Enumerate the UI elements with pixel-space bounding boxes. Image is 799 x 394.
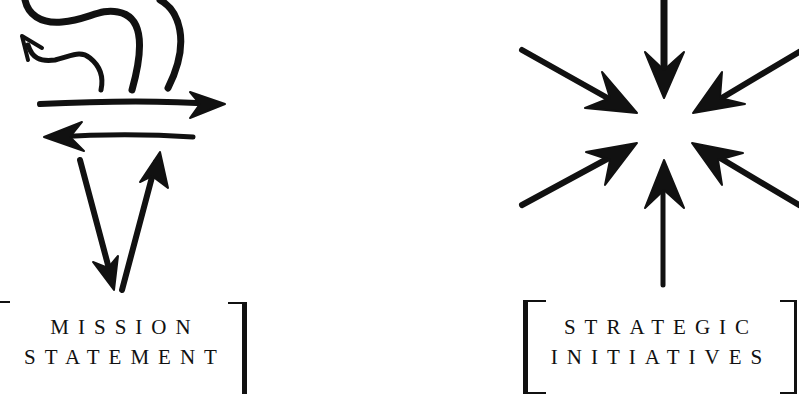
arrow-from-lower-right-icon <box>692 143 799 205</box>
label-line-2: STATEMENT <box>10 342 240 372</box>
torch-arrows-icon <box>0 0 270 300</box>
arrow-from-top-icon <box>645 0 684 98</box>
arrow-from-bottom-icon <box>645 160 684 285</box>
arrow-from-upper-left-icon <box>522 50 637 113</box>
mission-statement-label: MISSION STATEMENT <box>10 312 240 372</box>
strategic-initiatives-panel: STRATEGIC INITIATIVES <box>500 0 799 383</box>
label-line-2: INITIATIVES <box>540 342 782 372</box>
arrow-from-lower-left-icon <box>522 143 637 205</box>
mission-statement-panel: MISSION STATEMENT <box>0 0 270 383</box>
converging-arrows-starburst-icon <box>500 0 799 300</box>
right-bracket <box>780 300 797 394</box>
label-line-1: MISSION <box>10 312 240 342</box>
strategic-initiatives-label: STRATEGIC INITIATIVES <box>540 312 782 372</box>
arrow-from-upper-right-icon <box>693 52 799 113</box>
label-line-1: STRATEGIC <box>540 312 782 342</box>
left-bracket-stub <box>0 301 10 303</box>
